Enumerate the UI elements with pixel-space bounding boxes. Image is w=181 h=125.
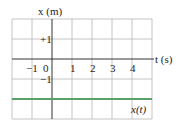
tick-x-3: 3 [110,62,116,74]
tick-y-neg1: −1 [40,73,52,85]
tick-x-2: 2 [90,62,96,74]
tick-y-pos1: +1 [40,33,52,45]
position-time-graph: x (m) t (s) −1 0 1 2 3 4 +1 −1 x(t) [0,0,181,125]
curve-label: x(t) [130,103,147,116]
x-axis-label: t (s) [155,53,173,66]
y-axis-label: x (m) [38,5,62,18]
tick-x-1: 1 [70,62,76,74]
tick-x-4: 4 [130,62,136,74]
tick-x-neg1: −1 [26,62,38,74]
